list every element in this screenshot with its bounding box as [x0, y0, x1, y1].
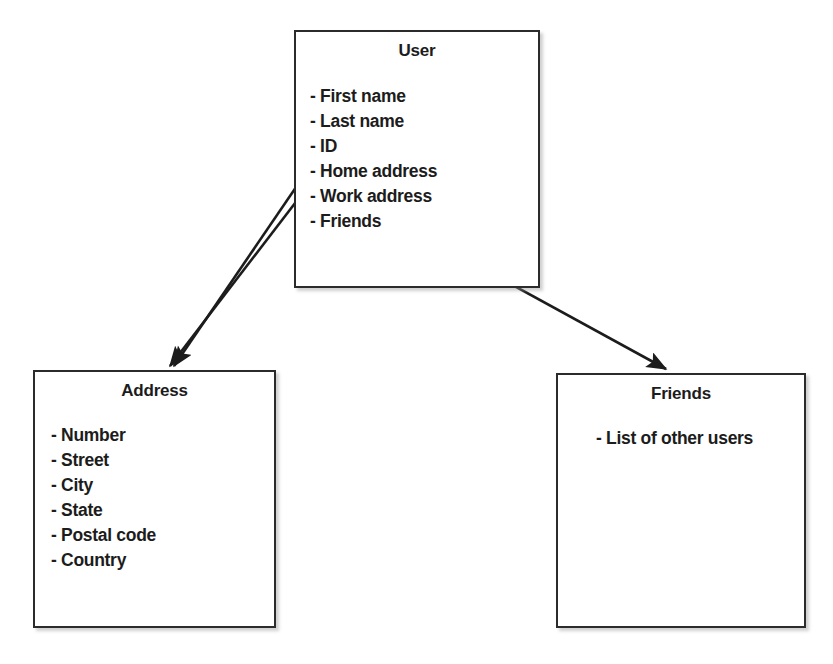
attribute-item: - Country	[51, 548, 274, 573]
entity-box-friends[interactable]: Friends - List of other users	[556, 373, 806, 628]
attribute-list-user: - First name - Last name - ID - Home add…	[310, 84, 538, 234]
attribute-item: - City	[51, 473, 274, 498]
attribute-item: - Street	[51, 448, 274, 473]
attribute-item: - Home address	[310, 159, 538, 184]
attribute-list-address: - Number - Street - City - State - Posta…	[51, 423, 274, 573]
attribute-item: - Work address	[310, 184, 538, 209]
connector-work-address-to-address	[170, 181, 312, 366]
attribute-item: - Number	[51, 423, 274, 448]
attribute-item: - State	[51, 498, 274, 523]
attribute-item: - Friends	[310, 209, 538, 234]
entity-title-user: User	[296, 41, 538, 61]
entity-title-address: Address	[35, 381, 274, 401]
attribute-list-friends: - List of other users	[596, 426, 804, 451]
entity-title-friends: Friends	[558, 384, 804, 404]
entity-box-user[interactable]: User - First name - Last name - ID - Hom…	[294, 30, 540, 288]
attribute-item: - First name	[310, 84, 538, 109]
attribute-item: - Postal code	[51, 523, 274, 548]
attribute-item: - List of other users	[596, 426, 804, 451]
diagram-canvas: User - First name - Last name - ID - Hom…	[0, 0, 833, 664]
attribute-item: - Last name	[310, 109, 538, 134]
entity-box-address[interactable]: Address - Number - Street - City - State…	[33, 370, 276, 628]
attribute-item: - ID	[310, 134, 538, 159]
